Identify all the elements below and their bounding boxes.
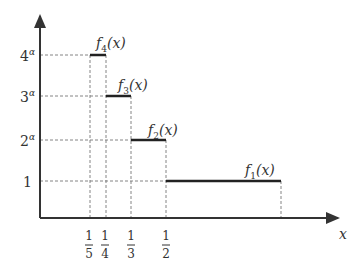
svg-text:4: 4 [101,247,109,261]
step-segments [90,55,281,181]
x-tick-labels: 15 14 13 12 [85,229,170,261]
svg-text:f3(x): f3(x) [117,77,148,96]
svg-text:3: 3 [127,247,135,261]
svg-text:f2(x): f2(x) [147,122,178,141]
svg-text:1: 1 [23,174,32,190]
svg-text:4α: 4α [20,47,35,64]
svg-text:1: 1 [85,229,93,243]
svg-text:1: 1 [127,229,135,243]
svg-text:f4(x): f4(x) [95,35,126,54]
svg-text:3α: 3α [20,88,35,105]
svg-text:5: 5 [85,247,93,261]
y-tick-labels: 4α 3α 2α 1 [20,47,35,190]
svg-text:2: 2 [162,247,170,261]
svg-text:1: 1 [101,229,109,243]
svg-text:2α: 2α [20,132,35,149]
x-axis-label: x [339,226,347,242]
function-labels: f4(x) f3(x) f2(x) f1(x) [95,35,275,181]
svg-text:1: 1 [162,229,170,243]
svg-text:f1(x): f1(x) [244,162,275,181]
step-function-diagram: 4α 3α 2α 1 f4(x) f3(x) f2(x) f1(x) 15 14… [0,0,363,270]
